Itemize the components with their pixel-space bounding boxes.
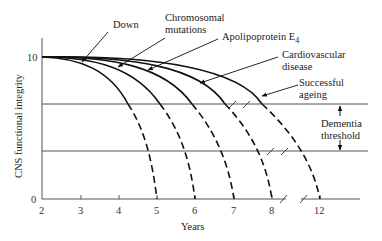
label-chromosomal-2: mutations [165,24,206,35]
label-chromosomal-1: Chromosomal [165,12,225,23]
x-tick-12: 12 [314,205,325,216]
curve-cardiovascular [42,57,225,104]
x-tick-6: 6 [192,205,197,216]
x-axis-title: Years [181,221,204,232]
x-tick-3: 3 [78,205,83,216]
label-dementia-2: threshold [321,130,361,141]
curve-down [42,57,128,104]
x-tick-2: 2 [39,205,44,216]
curve-chromosomal [42,57,160,104]
label-cardiovascular-1: Cardiovascular [282,49,346,60]
label-apolipoprotein: Apolipoprotein E4 [222,31,299,45]
y-axis-title: CNS functional integrity [13,73,24,178]
y-tick-0: 0 [31,194,36,205]
x-tick-8: 8 [269,205,274,216]
x-tick-7: 7 [231,205,236,216]
label-down: Down [113,19,139,30]
curves-solid [42,57,262,104]
label-successful-2: ageing [299,89,328,100]
threshold-break-marks [229,101,288,155]
label-dementia-1: Dementia [321,118,362,129]
y-tick-10: 10 [27,52,38,63]
curve-successful [42,57,262,104]
x-tick-4: 4 [116,205,122,216]
cns-integrity-diagram: 10 0 2 3 4 5 6 7 8 12 Years CNS function… [0,0,382,241]
x-tick-5: 5 [154,205,159,216]
label-cardiovascular-2: disease [282,61,313,72]
label-successful-1: Successful [299,77,344,88]
